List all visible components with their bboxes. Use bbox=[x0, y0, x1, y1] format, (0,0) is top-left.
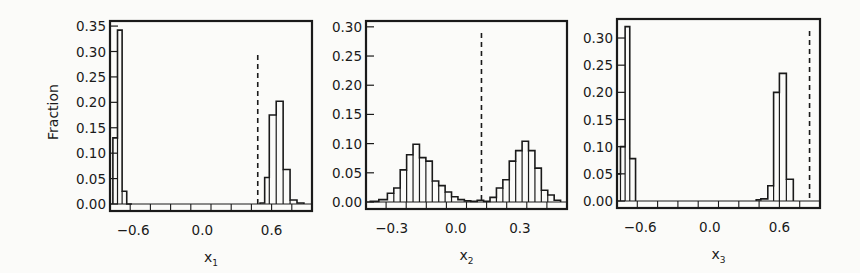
y-tick-label: 0.35 bbox=[76, 18, 106, 34]
y-tick-label: 0.30 bbox=[76, 44, 106, 60]
y-tick-label: 0.05 bbox=[76, 171, 106, 187]
y-tick-label: 0.30 bbox=[332, 19, 362, 35]
x-tick-label: −0.6 bbox=[624, 219, 657, 235]
y-tick-label: 0.25 bbox=[332, 48, 362, 64]
histogram-figure: 0.000.050.100.150.200.250.300.35−0.60.00… bbox=[0, 0, 860, 273]
histogram-outline bbox=[617, 27, 793, 201]
plot-frame bbox=[110, 21, 312, 211]
y-tick-label: 0.00 bbox=[332, 194, 362, 210]
y-tick-label: 0.30 bbox=[583, 30, 613, 46]
x-axis-title: x3 bbox=[711, 246, 725, 265]
histogram-panel-1: 0.000.050.100.150.200.250.300.35−0.60.00… bbox=[45, 18, 312, 268]
histogram-outline bbox=[113, 30, 304, 204]
y-tick-label: 0.10 bbox=[332, 136, 362, 152]
x-tick-label: 0.0 bbox=[699, 219, 720, 235]
histogram-panel-3: 0.000.050.100.150.200.250.30−0.60.00.6x3 bbox=[583, 19, 820, 265]
y-tick-label: 0.15 bbox=[583, 112, 613, 128]
y-tick-label: 0.05 bbox=[583, 166, 613, 182]
y-tick-label: 0.15 bbox=[332, 106, 362, 122]
x-axis-title: x1 bbox=[204, 249, 218, 268]
y-tick-label: 0.20 bbox=[76, 94, 106, 110]
y-tick-label: 0.15 bbox=[76, 120, 106, 136]
x-tick-label: 0.0 bbox=[192, 222, 213, 238]
y-tick-label: 0.25 bbox=[76, 69, 106, 85]
x-tick-label: 0.0 bbox=[445, 220, 466, 236]
y-tick-label: 0.20 bbox=[583, 84, 613, 100]
plot-frame bbox=[366, 21, 567, 209]
y-axis-title: Fraction bbox=[45, 84, 61, 140]
x-tick-label: 0.6 bbox=[261, 222, 282, 238]
y-tick-label: 0.10 bbox=[583, 139, 613, 155]
y-tick-label: 0.10 bbox=[76, 145, 106, 161]
y-tick-label: 0.25 bbox=[583, 57, 613, 73]
histogram-panel-2: 0.000.050.100.150.200.250.30−0.30.00.3x2 bbox=[332, 19, 567, 266]
y-tick-label: 0.20 bbox=[332, 77, 362, 93]
y-tick-label: 0.05 bbox=[332, 165, 362, 181]
y-tick-label: 0.00 bbox=[76, 196, 106, 212]
x-tick-label: 0.6 bbox=[769, 219, 790, 235]
y-tick-label: 0.00 bbox=[583, 193, 613, 209]
histogram-outline bbox=[370, 141, 560, 202]
x-tick-label: −0.6 bbox=[117, 222, 150, 238]
x-axis-title: x2 bbox=[459, 247, 473, 266]
x-tick-label: −0.3 bbox=[375, 220, 408, 236]
x-tick-label: 0.3 bbox=[509, 220, 530, 236]
